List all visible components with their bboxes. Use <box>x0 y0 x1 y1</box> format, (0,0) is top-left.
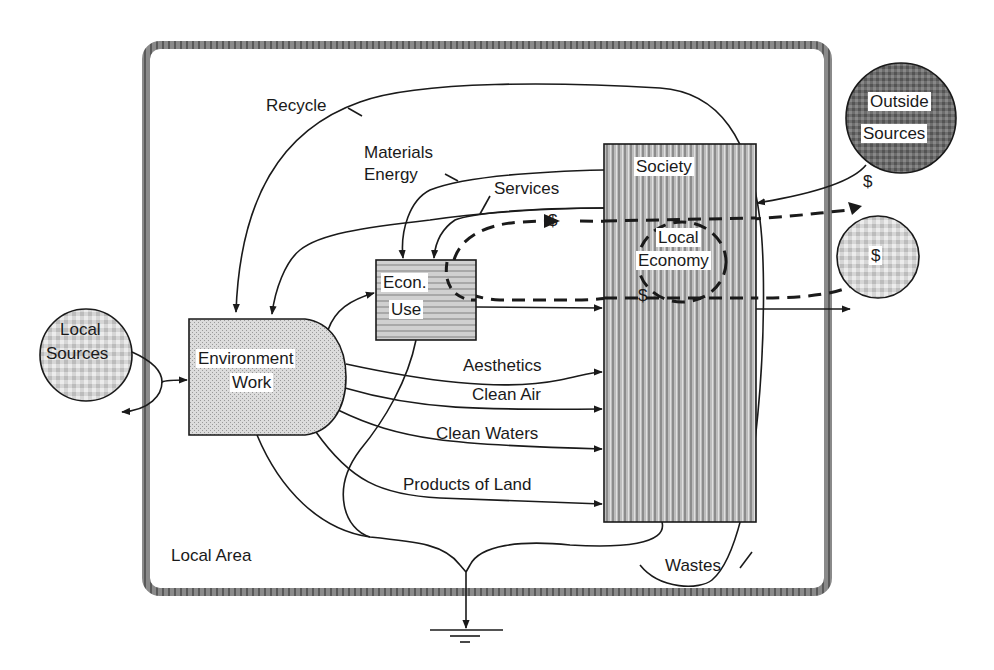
label-money-source: $ <box>869 246 882 265</box>
flow-society-heat <box>466 522 663 572</box>
label-local-economy-2: Economy <box>636 251 711 270</box>
label-money-services: $ <box>548 211 557 230</box>
flow-local-sources-in <box>132 352 187 382</box>
wastes-leader <box>740 552 752 568</box>
diagram-canvas <box>0 0 994 670</box>
label-local-area: Local Area <box>171 546 251 565</box>
label-outside-sources-1: Outside <box>868 92 931 111</box>
recycle-leader <box>348 108 362 116</box>
label-aesthetics: Aesthetics <box>463 356 541 375</box>
label-society: Society <box>634 157 694 176</box>
society-node[interactable] <box>604 144 756 522</box>
label-products-of-land: Products of Land <box>403 475 532 494</box>
label-econ-2: Use <box>389 300 423 319</box>
flow-econ-heat <box>343 340 416 537</box>
services-leader <box>480 196 490 214</box>
label-clean-waters: Clean Waters <box>436 424 538 443</box>
money-econ-to-society <box>454 221 544 260</box>
money-bottom-line <box>458 278 625 300</box>
flow-econ-to-society <box>476 307 602 308</box>
label-wastes: Wastes <box>665 556 721 575</box>
label-recycle: Recycle <box>266 96 326 115</box>
label-money-local-economy: $ <box>638 286 647 305</box>
label-environment-1: Environment <box>196 349 295 368</box>
label-local-sources-1: Local <box>60 320 101 339</box>
outside-sources-node[interactable] <box>846 63 956 173</box>
money-arrowhead-outside <box>848 202 862 215</box>
label-environment-2: Work <box>230 373 273 392</box>
label-money-outside: $ <box>863 172 872 191</box>
heat-sink-icon <box>430 630 503 642</box>
label-outside-sources-2: Sources <box>861 124 927 143</box>
flow-outside-to-society <box>757 165 866 203</box>
label-services: Services <box>494 179 559 198</box>
label-econ-1: Econ. <box>381 273 428 292</box>
materials-leader <box>445 174 458 181</box>
label-materials: Materials <box>364 143 433 162</box>
label-local-economy-1: Local <box>656 228 701 247</box>
flow-env-to-econ <box>328 293 374 330</box>
label-energy: Energy <box>364 165 418 184</box>
flow-env-heat <box>257 435 466 572</box>
label-clean-air: Clean Air <box>472 385 541 404</box>
label-local-sources-2: Sources <box>46 344 108 363</box>
